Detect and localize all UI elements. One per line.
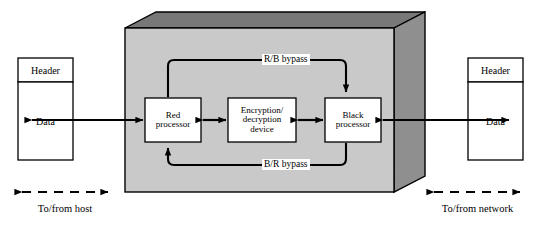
red-processor-label: Red processor: [145, 98, 201, 142]
black-processor-label-line2: processor: [336, 120, 371, 129]
enclosure-top-face: [125, 12, 425, 28]
black-processor-label: Black processor: [325, 98, 381, 142]
right-packet-header-label: Header: [468, 58, 523, 82]
br-bypass-label: B/R bypass: [262, 159, 310, 170]
encryption-device-label: Encryption/ decryption device: [228, 98, 296, 142]
rb-bypass-label: R/B bypass: [262, 54, 310, 65]
red-processor-label-line2: processor: [156, 120, 191, 129]
left-packet-header-label: Header: [18, 58, 73, 82]
encryption-device-label-line3: device: [250, 125, 273, 134]
host-footer-label: To/from host: [10, 203, 120, 214]
network-footer-label: To/from network: [415, 203, 540, 214]
enclosure-side-face: [394, 12, 425, 192]
right-packet-data-label: Data: [468, 82, 523, 160]
left-packet-data-label: Data: [18, 82, 73, 160]
diagram-canvas: Header Data Header Data Red processor En…: [0, 0, 540, 225]
